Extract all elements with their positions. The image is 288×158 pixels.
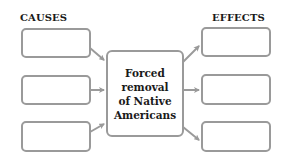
central-event-box: Forced removal of Native Americans [106,50,184,137]
cause-box-2[interactable] [21,75,91,105]
arrow-effect-1 [183,46,199,62]
central-event-line-4: Americans [114,108,176,122]
arrow-cause-3 [90,124,104,132]
effect-box-3[interactable] [201,121,271,152]
cause-box-3[interactable] [21,121,91,152]
arrow-effect-3 [183,127,199,140]
central-event-line-1: Forced [114,66,176,80]
effect-box-2[interactable] [201,74,271,105]
central-event-line-2: removal [114,80,176,94]
cause-box-1[interactable] [21,28,91,58]
arrow-cause-1 [90,48,104,60]
effect-box-1[interactable] [201,27,271,57]
central-event-line-3: of Native [114,94,176,108]
